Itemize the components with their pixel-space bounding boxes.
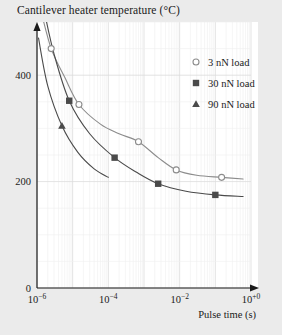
- legend-marker-open-circle: [193, 59, 199, 65]
- data-point-open-circle: [173, 167, 179, 173]
- x-axis-title: Pulse time (s): [198, 309, 256, 321]
- y-tick-label: 0: [26, 283, 31, 294]
- data-point-open-circle: [76, 101, 82, 107]
- figure-container: Cantilever heater temperature (°C) 02004…: [0, 0, 282, 335]
- legend-marker-filled-square: [193, 80, 199, 86]
- x-tick-label: 10−6: [28, 292, 47, 305]
- chart-canvas: 0200400 10−610−410−210+0 Pulse time (s) …: [0, 0, 282, 335]
- data-point-filled-square: [212, 192, 218, 198]
- x-axis-tick-labels: 10−610−410−210+0: [28, 292, 261, 305]
- data-point-filled-square: [155, 181, 161, 187]
- data-point-filled-square: [66, 98, 72, 104]
- data-point-open-circle: [48, 46, 54, 52]
- y-tick-label: 200: [15, 176, 31, 187]
- y-tick-label: 400: [15, 70, 31, 81]
- x-tick-label: 10−4: [99, 292, 118, 305]
- x-tick-label: 10−2: [170, 292, 189, 305]
- data-point-open-circle: [135, 139, 141, 145]
- legend-label: 30 nN load: [208, 78, 255, 89]
- legend-label: 3 nN load: [208, 57, 250, 68]
- data-point-open-circle: [219, 174, 225, 180]
- y-axis-tick-labels: 0200400: [15, 70, 31, 294]
- data-point-filled-square: [111, 154, 117, 160]
- legend-label: 90 nN load: [208, 99, 255, 110]
- x-tick-label: 10+0: [242, 292, 261, 305]
